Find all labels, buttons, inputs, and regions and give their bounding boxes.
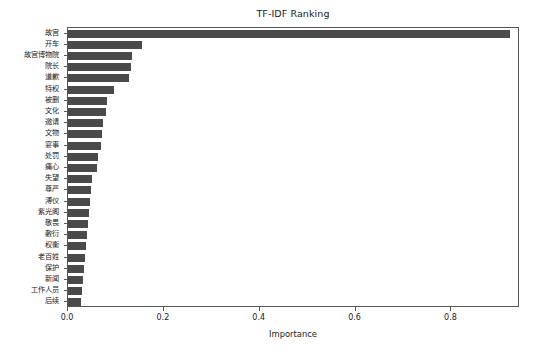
bar-row	[68, 265, 520, 273]
bar-row	[68, 153, 520, 161]
x-tick-mark	[67, 307, 68, 311]
y-tick-label: 后续	[45, 298, 59, 305]
bar-row	[68, 186, 520, 194]
y-axis: 故宫开车故宫博物院院长道歉特权被删文化邀请文物宴事处罚痛心失望尊严溥仪紫光阁敬畏…	[0, 27, 67, 307]
bar	[68, 130, 102, 138]
bar	[68, 86, 114, 94]
bar-row	[68, 30, 520, 38]
x-tick-label: 0.8	[444, 313, 457, 322]
bar	[68, 220, 88, 228]
bar	[68, 209, 89, 217]
x-tick-label: 0.2	[156, 313, 169, 322]
x-tick-mark	[259, 307, 260, 311]
y-tick-label: 老百姓	[38, 253, 59, 260]
y-tick-label: 处罚	[45, 152, 59, 159]
y-tick-label: 宴事	[45, 141, 59, 148]
plot-area	[67, 27, 519, 307]
bar	[68, 298, 81, 306]
bar	[68, 153, 98, 161]
bar	[68, 52, 132, 60]
x-tick-mark	[355, 307, 356, 311]
chart-figure: TF-IDF Ranking 故宫开车故宫博物院院长道歉特权被删文化邀请文物宴事…	[0, 0, 549, 359]
x-tick-label: 0.0	[61, 313, 74, 322]
y-tick-label: 故宫博物院	[24, 51, 59, 58]
y-tick-label: 道歉	[45, 74, 59, 81]
bar	[68, 63, 131, 71]
bar-row	[68, 198, 520, 206]
x-axis-label: Importance	[67, 329, 519, 339]
bar	[68, 287, 82, 295]
bar	[68, 119, 103, 127]
bar	[68, 164, 97, 172]
y-tick-label: 权衡	[45, 242, 59, 249]
bar-row	[68, 97, 520, 105]
y-tick-label: 工作人员	[31, 287, 59, 294]
bar-row	[68, 298, 520, 306]
bar-row	[68, 164, 520, 172]
y-tick-label: 痛心	[45, 163, 59, 170]
bar-row	[68, 220, 520, 228]
bar-row	[68, 130, 520, 138]
y-tick-label: 敬畏	[45, 219, 59, 226]
bar-row	[68, 86, 520, 94]
bar-row	[68, 287, 520, 295]
y-tick-label: 溥仪	[45, 197, 59, 204]
bar-row	[68, 52, 520, 60]
y-tick-label: 保护	[45, 264, 59, 271]
x-tick-label: 0.4	[252, 313, 265, 322]
y-tick-label: 新闻	[45, 275, 59, 282]
bar	[68, 242, 86, 250]
y-tick-label: 被删	[45, 96, 59, 103]
y-tick-label: 开车	[45, 40, 59, 47]
bar-row	[68, 254, 520, 262]
y-tick-label: 故宫	[45, 29, 59, 36]
y-tick-label: 邀请	[45, 119, 59, 126]
y-tick-label: 特权	[45, 85, 59, 92]
bar-row	[68, 108, 520, 116]
bar-row	[68, 231, 520, 239]
bar	[68, 265, 84, 273]
y-tick-label: 敷衍	[45, 231, 59, 238]
bar	[68, 97, 107, 105]
bar-row	[68, 63, 520, 71]
bar	[68, 276, 83, 284]
bar	[68, 198, 90, 206]
bars-layer	[68, 28, 518, 306]
bar-row	[68, 142, 520, 150]
bar	[68, 142, 101, 150]
bar	[68, 231, 87, 239]
x-tick-label: 0.6	[348, 313, 361, 322]
bar	[68, 30, 510, 38]
bar-row	[68, 74, 520, 82]
x-tick-mark	[450, 307, 451, 311]
bar	[68, 74, 129, 82]
bar	[68, 108, 106, 116]
x-tick-mark	[163, 307, 164, 311]
bar	[68, 254, 85, 262]
y-tick-label: 紫光阁	[38, 208, 59, 215]
bar-row	[68, 242, 520, 250]
y-tick-label: 文物	[45, 130, 59, 137]
chart-title: TF-IDF Ranking	[67, 8, 519, 19]
bar	[68, 175, 92, 183]
bar-row	[68, 276, 520, 284]
bar-row	[68, 119, 520, 127]
bar	[68, 186, 91, 194]
y-tick-label: 文化	[45, 107, 59, 114]
bar	[68, 41, 142, 49]
bar-row	[68, 175, 520, 183]
y-tick-label: 失望	[45, 175, 59, 182]
y-tick-label: 尊严	[45, 186, 59, 193]
bar-row	[68, 209, 520, 217]
bar-row	[68, 41, 520, 49]
y-tick-label: 院长	[45, 63, 59, 70]
